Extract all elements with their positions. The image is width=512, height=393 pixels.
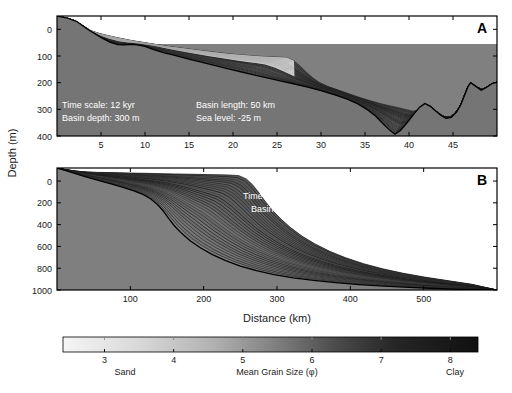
x-axis-title: Distance (km) [243, 312, 311, 324]
x-tick-label: 35 [360, 140, 370, 150]
panel-b-letter: B [477, 172, 487, 188]
colorbar-tick-label: 6 [309, 355, 314, 365]
y-axis-title: Depth (m) [6, 129, 18, 178]
colorbar-right-label: Clay [446, 367, 465, 377]
y-tick-label: 300 [37, 105, 52, 115]
panel-b-sea-level: Sea level: ±200 m [394, 204, 466, 214]
x-tick-label: 100 [123, 294, 138, 304]
y-tick-label: 800 [37, 264, 52, 274]
colorbar-tick-label: 3 [102, 355, 107, 365]
colorbar-tick-label: 4 [171, 355, 176, 365]
x-tick-label: 40 [404, 140, 414, 150]
panel-a-basin-length: Basin length: 50 km [196, 100, 275, 110]
x-tick-label: 15 [184, 140, 194, 150]
y-tick-label: 1000 [32, 286, 52, 296]
colorbar-tick-label: 8 [448, 355, 453, 365]
y-tick-label: 0 [47, 25, 52, 35]
x-tick-label: 300 [269, 294, 284, 304]
x-tick-label: 25 [272, 140, 282, 150]
x-tick-label: 10 [140, 140, 150, 150]
y-tick-label: 200 [37, 198, 52, 208]
x-tick-label: 400 [343, 294, 358, 304]
y-tick-label: 100 [37, 52, 52, 62]
colorbar-gradient [63, 337, 478, 352]
x-tick-label: 30 [316, 140, 326, 150]
panel-a-basin-depth: Basin depth: 300 m [62, 113, 140, 123]
x-tick-label: 200 [196, 294, 211, 304]
colorbar-tick-label: 5 [240, 355, 245, 365]
y-tick-label: 400 [37, 132, 52, 142]
colorbar-left-label: Sand [114, 367, 135, 377]
stratigraphy-figure: 510152025303540450100200300400 A Time sc… [0, 0, 512, 393]
y-tick-label: 400 [37, 220, 52, 230]
colorbar-tick-label: 7 [379, 355, 384, 365]
y-tick-label: 0 [47, 177, 52, 187]
panel-a-letter: A [477, 20, 487, 36]
colorbar-title: Mean Grain Size (φ) [236, 367, 317, 377]
panel-a-time-scale: Time scale: 12 kyr [62, 100, 135, 110]
panel-b-time-scale: Time scale: 3 Myr [243, 191, 314, 201]
panel-b-basin-depth: Basin depth: 1,000 m [251, 204, 336, 214]
x-tick-label: 20 [228, 140, 238, 150]
x-tick-label: 5 [98, 140, 103, 150]
y-tick-label: 600 [37, 242, 52, 252]
panel-a-sea-level: Sea level: -25 m [196, 113, 261, 123]
panel-a: 510152025303540450100200300400 A Time sc… [37, 16, 497, 150]
x-tick-label: 45 [448, 140, 458, 150]
x-tick-label: 500 [416, 294, 431, 304]
panel-b: 10020030040050002004006008001000 B Time … [32, 168, 497, 304]
panel-b-basin-length: Basin length: 600 km [382, 191, 466, 201]
y-tick-label: 200 [37, 78, 52, 88]
